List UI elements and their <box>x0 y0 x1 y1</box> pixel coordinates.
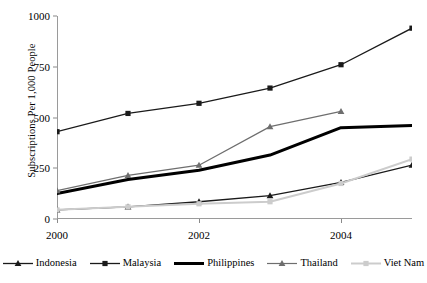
data-point-thailand <box>338 108 345 114</box>
x-tick-mark <box>199 219 200 223</box>
plot-area: 02505007501000 200020022004 <box>57 16 412 219</box>
data-point-malaysia <box>409 26 412 31</box>
data-point-viet-nam <box>409 157 412 162</box>
data-point-malaysia <box>338 62 343 67</box>
series-line-malaysia <box>57 28 412 132</box>
x-tick-label: 2002 <box>188 229 210 241</box>
data-point-viet-nam <box>125 204 130 209</box>
chart-legend: IndonesiaMalaysiaPhilippinesThailandViet… <box>0 258 427 269</box>
data-point-malaysia <box>267 85 272 90</box>
x-tick-mark <box>341 219 342 223</box>
data-point-malaysia <box>196 101 201 106</box>
series-lines-svg <box>57 16 412 219</box>
line-chart-figure: Subscriptions Per 1,000 People 025050075… <box>0 0 427 283</box>
legend-label: Thailand <box>300 258 337 269</box>
y-tick-label: 750 <box>34 61 51 73</box>
data-point-indonesia <box>409 162 412 168</box>
legend-swatch-square-icon <box>351 258 381 269</box>
x-tick-label: 2004 <box>330 229 352 241</box>
legend-item-malaysia[interactable]: Malaysia <box>90 258 162 269</box>
series-line-thailand <box>57 111 341 190</box>
data-point-malaysia <box>57 129 60 134</box>
y-tick-label: 1000 <box>28 10 50 22</box>
legend-label: Indonesia <box>36 258 77 269</box>
legend-item-thailand[interactable]: Thailand <box>267 258 337 269</box>
legend-item-philippines[interactable]: Philippines <box>174 258 254 269</box>
y-tick-label: 250 <box>34 162 51 174</box>
legend-swatch-triangle-icon <box>267 258 297 269</box>
data-point-viet-nam <box>338 181 343 186</box>
legend-swatch-square-icon <box>90 258 120 269</box>
x-tick-mark <box>57 219 58 223</box>
data-point-thailand <box>196 162 203 168</box>
legend-label: Philippines <box>207 258 254 269</box>
legend-label: Viet Nam <box>384 258 424 269</box>
data-point-viet-nam <box>57 207 60 212</box>
legend-label: Malaysia <box>123 258 162 269</box>
y-tick-label: 500 <box>34 112 51 124</box>
y-axis-title: Subscriptions Per 1,000 People <box>26 11 37 211</box>
legend-item-viet-nam[interactable]: Viet Nam <box>351 258 424 269</box>
legend-swatch-triangle-icon <box>3 258 33 269</box>
y-tick-label: 0 <box>45 213 51 225</box>
data-point-malaysia <box>125 111 130 116</box>
data-point-viet-nam <box>196 201 201 206</box>
legend-item-indonesia[interactable]: Indonesia <box>3 258 77 269</box>
x-tick-label: 2000 <box>46 229 68 241</box>
legend-marker <box>102 261 107 266</box>
data-point-viet-nam <box>267 199 272 204</box>
legend-marker <box>363 261 368 266</box>
legend-swatch-line-icon <box>174 258 204 269</box>
series-line-philippines <box>57 126 412 194</box>
